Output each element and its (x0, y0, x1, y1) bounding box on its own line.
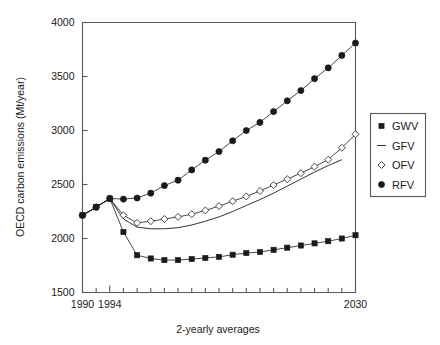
marker-open-diamond (256, 187, 263, 194)
marker-filled-circle (378, 181, 384, 187)
marker-open-diamond (270, 182, 277, 189)
marker-filled-circle (93, 204, 99, 210)
marker-filled-square (135, 253, 140, 258)
marker-open-diamond (202, 207, 209, 214)
x-axis-tick-marks (83, 286, 356, 293)
y-tick-label: 4000 (51, 16, 75, 28)
y-tick-label: 2000 (51, 232, 75, 244)
y-tick-label: 3500 (51, 70, 75, 82)
y-tick-label: 3000 (51, 124, 75, 136)
legend-label: RFV (392, 179, 415, 191)
marker-filled-square (285, 245, 290, 250)
marker-filled-circle (107, 195, 113, 201)
marker-filled-circle (352, 40, 358, 46)
marker-filled-circle (284, 98, 290, 104)
marker-filled-circle (311, 76, 317, 82)
marker-filled-square (379, 123, 384, 128)
marker-open-diamond (147, 218, 154, 225)
marker-open-diamond (297, 170, 304, 177)
marker-filled-square (121, 229, 126, 234)
chart-legend: GWVGFVOFVRFV (371, 114, 426, 197)
x-tick-label: 1990 (71, 298, 95, 310)
marker-filled-circle (161, 182, 167, 188)
plot-frame (83, 23, 356, 293)
marker-open-diamond (161, 216, 168, 223)
marker-open-diamond (216, 203, 223, 210)
marker-open-diamond (243, 193, 250, 200)
y-axis-title: OECD carbon emissions (Mt/year) (14, 77, 26, 237)
x-tick-label: 1994 (98, 298, 122, 310)
marker-filled-circle (243, 127, 249, 133)
marker-filled-square (339, 236, 344, 241)
series-rfv (79, 40, 358, 218)
marker-open-diamond (229, 198, 236, 205)
chart-figure: 150020002500300035004000 199019942030 OE… (0, 0, 440, 345)
x-axis-tick-labels: 199019942030 (71, 298, 368, 310)
marker-filled-circle (216, 148, 222, 154)
marker-filled-square (312, 241, 317, 246)
marker-filled-circle (325, 65, 331, 71)
chart-svg: 150020002500300035004000 199019942030 OE… (0, 0, 440, 345)
series-path (83, 43, 356, 215)
marker-filled-circle (271, 109, 277, 115)
legend-label: GFV (392, 140, 415, 152)
marker-filled-square (162, 258, 167, 263)
marker-filled-circle (148, 190, 154, 196)
marker-filled-square (203, 255, 208, 260)
marker-open-diamond (311, 163, 318, 170)
marker-filled-circle (175, 177, 181, 183)
series-gfv (83, 160, 342, 229)
marker-filled-circle (79, 212, 85, 218)
y-axis-tick-labels: 150020002500300035004000 (51, 16, 75, 298)
marker-filled-circle (257, 119, 263, 125)
series-layer (79, 40, 359, 263)
marker-open-diamond (188, 211, 195, 218)
marker-filled-square (271, 247, 276, 252)
marker-open-diamond (175, 213, 182, 220)
marker-filled-circle (189, 167, 195, 173)
x-axis-title: 2-yearly averages (176, 323, 259, 335)
marker-filled-circle (134, 195, 140, 201)
x-tick-label: 2030 (344, 298, 368, 310)
marker-filled-circle (339, 52, 345, 58)
marker-filled-square (175, 258, 180, 263)
marker-filled-square (189, 256, 194, 261)
series-path (83, 160, 342, 229)
marker-filled-square (230, 252, 235, 257)
marker-filled-circle (230, 138, 236, 144)
y-tick-label: 2500 (51, 178, 75, 190)
marker-filled-square (216, 254, 221, 259)
series-ofv (79, 131, 359, 227)
marker-filled-square (244, 250, 249, 255)
marker-filled-square (353, 233, 358, 238)
marker-open-diamond (284, 176, 291, 183)
marker-filled-square (148, 256, 153, 261)
marker-filled-square (326, 239, 331, 244)
y-axis-tick-marks (83, 23, 88, 293)
y-tick-label: 1500 (51, 286, 75, 298)
marker-filled-circle (120, 196, 126, 202)
legend-label: GWV (392, 120, 419, 132)
marker-filled-square (298, 243, 303, 248)
marker-filled-circle (202, 157, 208, 163)
legend-label: OFV (392, 159, 415, 171)
marker-filled-square (257, 249, 262, 254)
marker-filled-circle (298, 87, 304, 93)
